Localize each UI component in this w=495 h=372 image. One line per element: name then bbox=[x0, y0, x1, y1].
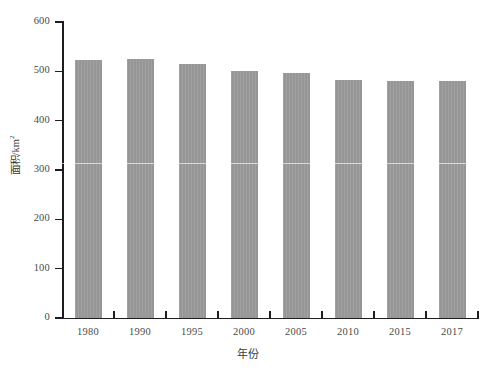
x-tick-mark bbox=[373, 311, 374, 318]
x-tick-mark bbox=[269, 311, 270, 318]
y-tick-label: 300 bbox=[4, 163, 50, 174]
bar bbox=[179, 64, 206, 318]
bar bbox=[231, 71, 258, 318]
y-tick-label: 500 bbox=[4, 64, 50, 75]
x-axis-title: 年份 bbox=[0, 345, 495, 361]
bar bbox=[387, 81, 414, 318]
bar bbox=[439, 81, 466, 318]
y-tick-label: 100 bbox=[4, 262, 50, 273]
x-tick-mark bbox=[217, 311, 218, 318]
x-tick-label: 2015 bbox=[370, 326, 430, 337]
x-tick-mark bbox=[165, 311, 166, 318]
y-tick-label: 200 bbox=[4, 212, 50, 223]
x-tick-label: 2005 bbox=[266, 326, 326, 337]
y-tick-label: 400 bbox=[4, 114, 50, 125]
bar-chart: 面积/km2 0100200300400500600 1980199019952… bbox=[0, 0, 495, 372]
x-tick-label: 1990 bbox=[110, 326, 170, 337]
x-tick-mark bbox=[113, 311, 114, 318]
x-tick-label: 2000 bbox=[214, 326, 274, 337]
bar bbox=[283, 73, 310, 318]
x-tick-label: 1980 bbox=[58, 326, 118, 337]
plot-area bbox=[62, 22, 478, 318]
x-tick-label: 1995 bbox=[162, 326, 222, 337]
gridline-300 bbox=[62, 163, 478, 164]
x-tick-mark bbox=[321, 311, 322, 318]
x-tick-label: 2010 bbox=[318, 326, 378, 337]
bar bbox=[127, 59, 154, 318]
y-axis-title: 面积/km2 bbox=[7, 116, 22, 196]
y-tick-label: 0 bbox=[4, 311, 50, 322]
x-tick-mark bbox=[477, 311, 478, 318]
y-tick-label: 600 bbox=[4, 15, 50, 26]
y-axis-title-superscript: 2 bbox=[8, 136, 16, 140]
bar bbox=[75, 60, 102, 318]
bar bbox=[335, 80, 362, 318]
x-tick-mark bbox=[425, 311, 426, 318]
x-tick-label: 2017 bbox=[422, 326, 482, 337]
